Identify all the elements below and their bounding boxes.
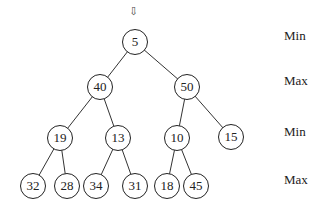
node-value: 10 [171, 130, 184, 146]
node-value: 5 [132, 34, 139, 50]
node-value: 19 [54, 130, 67, 146]
level-label-min: Min [284, 28, 306, 44]
heap-node: 31 [122, 173, 148, 199]
heap-node: 34 [83, 173, 109, 199]
node-value: 32 [27, 178, 40, 194]
level-label-max: Max [284, 73, 308, 89]
node-value: 28 [61, 178, 74, 194]
heap-node: 40 [87, 74, 113, 100]
heap-node-root: 5 [122, 29, 148, 55]
heap-node: 15 [218, 124, 244, 150]
heap-node: 13 [105, 125, 131, 151]
heap-node: 45 [183, 173, 209, 199]
heap-node: 32 [20, 173, 46, 199]
root-pointer-arrow-icon: ⇩ [129, 5, 138, 18]
node-value: 34 [90, 178, 103, 194]
heap-node: 28 [54, 173, 80, 199]
heap-node: 18 [154, 173, 180, 199]
heap-node: 50 [174, 74, 200, 100]
node-value: 45 [190, 178, 203, 194]
node-value: 15 [225, 129, 238, 145]
node-value: 40 [94, 79, 107, 95]
level-label-max: Max [284, 172, 308, 188]
heap-node: 19 [47, 125, 73, 151]
node-value: 50 [181, 79, 194, 95]
node-value: 18 [161, 178, 174, 194]
heap-node: 10 [164, 125, 190, 151]
node-value: 31 [129, 178, 142, 194]
node-value: 13 [112, 130, 125, 146]
level-label-min: Min [284, 124, 306, 140]
